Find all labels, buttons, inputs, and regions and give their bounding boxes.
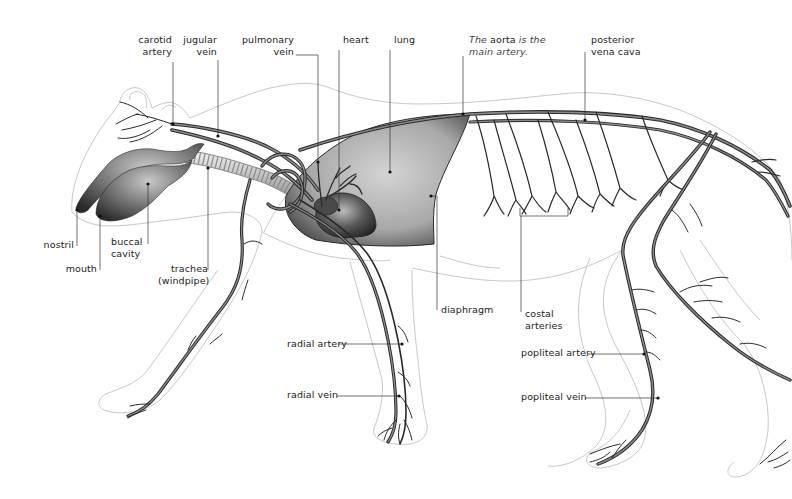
label-trachea: trachea (windpipe): [158, 263, 208, 287]
label-line: artery: [128, 46, 172, 58]
aorta-note-rest: is the: [519, 34, 546, 45]
label-line: buccal: [111, 236, 143, 248]
label-line: trachea: [158, 263, 208, 275]
label-line: jugular: [182, 34, 217, 46]
costal-arteries: [476, 112, 780, 216]
label-line: The aorta is the: [469, 34, 546, 46]
label-popliteal-artery: popliteal artery: [521, 347, 596, 359]
hind-leg-vessels: [590, 132, 790, 468]
label-aorta-note: The aorta is the main artery.: [469, 34, 546, 58]
trachea-drawing: [186, 156, 300, 196]
label-carotid-artery: carotid artery: [128, 34, 172, 58]
cat-circulatory-diagram: carotid artery jugular vein pulmonary ve…: [0, 0, 792, 499]
label-line: (windpipe): [158, 275, 208, 287]
label-radial-vein: radial vein: [287, 389, 338, 401]
label-costal-arteries: costal arteries: [525, 308, 562, 332]
lung-drawing: [285, 114, 470, 246]
label-jugular-vein: jugular vein: [182, 34, 217, 58]
label-line: vein: [240, 46, 294, 58]
label-radial-artery: radial artery: [287, 338, 347, 350]
label-line: cavity: [111, 248, 143, 260]
label-buccal-cavity: buccal cavity: [111, 236, 143, 260]
label-posterior-vena-cava: posterior vena cava: [591, 34, 641, 58]
aorta-note-keyword: aorta: [490, 34, 516, 45]
label-line: posterior: [591, 34, 641, 46]
label-heart: heart: [343, 34, 369, 46]
label-mouth: mouth: [50, 263, 97, 275]
label-line: carotid: [128, 34, 172, 46]
label-line: costal: [525, 308, 562, 320]
aorta-note-prefix: The: [469, 34, 487, 45]
label-nostril: nostril: [28, 239, 74, 251]
label-diaphragm: diaphragm: [441, 304, 493, 316]
label-line: arteries: [525, 320, 562, 332]
label-line: pulmonary: [240, 34, 294, 46]
buccal-cavity-drawing: [76, 143, 204, 221]
label-lung: lung: [394, 34, 415, 46]
label-line: main artery.: [469, 46, 546, 58]
label-line: vena cava: [591, 46, 641, 58]
label-pulmonary-vein: pulmonary vein: [240, 34, 294, 58]
label-line: vein: [182, 46, 217, 58]
label-popliteal-vein: popliteal vein: [521, 391, 587, 403]
